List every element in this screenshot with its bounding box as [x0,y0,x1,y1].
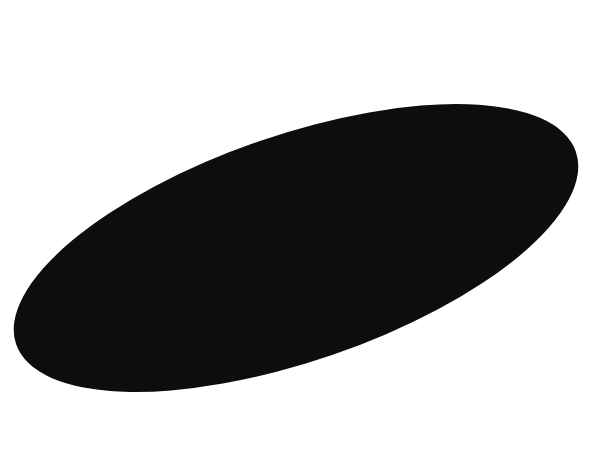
canvas [0,0,613,453]
